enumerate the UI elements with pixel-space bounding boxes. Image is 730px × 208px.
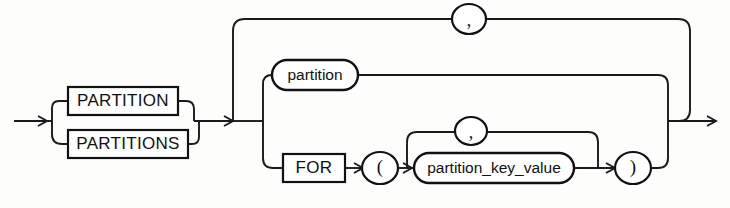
keyword-for[interactable]: FOR [283,154,345,182]
inner-comma-node[interactable]: , [455,117,487,145]
keyword-partition-label: PARTITION [77,91,169,110]
keyword-for-label: FOR [296,158,333,177]
rparen-to-mainline-rail [651,121,668,168]
rparen-label: ) [630,156,636,178]
value-to-rparen-arrow [574,163,615,173]
nonterminal-partition-label: partition [287,66,342,83]
inner-comma-label: , [469,122,474,142]
mid-connector-arrow [199,116,263,126]
keyword-partitions-label: PARTITIONS [76,134,179,153]
outer-comma-node[interactable]: , [452,4,486,34]
outer-comma-label: , [467,10,472,30]
syntax-diagram: PARTITION PARTITIONS , [0,0,730,208]
lparen-label: ( [377,156,383,178]
nonterminal-partition[interactable]: partition [272,60,358,90]
nonterminal-partition-key-value-label: partition_key_value [427,159,561,176]
nonterminal-partition-key-value[interactable]: partition_key_value [414,153,574,183]
keyword-partitions[interactable]: PARTITIONS [68,130,188,158]
for-to-lparen-arrow [345,163,363,173]
lparen-node[interactable]: ( [362,152,398,184]
entry-arrow [14,116,47,126]
keyword-partition[interactable]: PARTITION [68,87,178,115]
for-branch-rails [263,121,283,168]
rparen-node[interactable]: ) [615,152,651,184]
exit-arrow [668,116,716,126]
railroad-canvas: PARTITION PARTITIONS , [0,0,730,208]
